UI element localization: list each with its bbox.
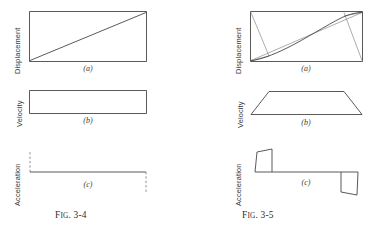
construction-line-left: [251, 13, 269, 57]
figure-sheet: Displacement (a) Velocity (b) Accelerati…: [0, 0, 366, 237]
figure-3-4: Displacement (a) Velocity (b) Accelerati…: [0, 0, 183, 237]
fig-3-4-panel-b-label: (b): [58, 116, 118, 125]
fig-3-5-panel-c-plot: [250, 148, 363, 196]
fig-3-4-panel-c-axis-label: Acceleration: [14, 150, 21, 206]
velocity-rect: [30, 91, 147, 114]
caption-number: . 3-5: [256, 210, 274, 220]
fig-3-4-caption: FIG. 3-4: [55, 210, 87, 220]
caption-ig: IG: [247, 211, 255, 220]
fig-3-5-panel-c-label: (c): [276, 178, 336, 187]
acceleration-pulse-negative: [341, 172, 358, 195]
acceleration-pulse-positive: [255, 149, 272, 172]
fig-3-5-panel-b-plot: [250, 90, 363, 116]
fig-3-5-panel-b-label: (b): [276, 118, 336, 127]
displacement-line: [30, 13, 146, 61]
fig-3-4-panel-a-plot: [29, 11, 147, 62]
fig-3-5-panel-a-axis-label: Displacement: [235, 10, 242, 74]
figure-3-5: Displacement (a) Velocity (b): [183, 0, 366, 237]
chord-line: [251, 13, 362, 61]
fig-3-4-panel-a-label: (a): [58, 64, 118, 73]
fig-3-5-panel-c-axis-label: Acceleration: [235, 150, 242, 206]
fig-3-4-panel-c-label: (c): [58, 180, 118, 189]
fig-3-5-panel-a: Displacement (a): [183, 0, 366, 82]
caption-ig: IG: [60, 211, 68, 220]
fig-3-5-caption: FIG. 3-5: [242, 210, 274, 220]
fig-3-5-panel-a-label: (a): [276, 64, 336, 73]
fig-3-5-panel-c: Acceleration (c): [183, 140, 366, 206]
fig-3-5-panel-b-axis-label: Velocity: [237, 88, 244, 128]
fig-3-4-panel-b: Velocity (b): [0, 82, 183, 140]
fig-3-5-panel-a-plot: [250, 11, 363, 62]
fig-3-4-panel-a: Displacement (a): [0, 0, 183, 82]
fig-3-5-panel-b: Velocity (b): [183, 82, 366, 140]
caption-number: . 3-4: [69, 210, 87, 220]
fig-3-4-panel-b-plot: [29, 90, 147, 114]
construction-line-right: [344, 13, 362, 61]
velocity-trapezoid: [251, 92, 362, 115]
fig-3-4-panel-b-axis-label: Velocity: [16, 89, 23, 127]
fig-3-4-panel-c: Acceleration (c): [0, 140, 183, 206]
fig-3-4-panel-a-axis-label: Displacement: [14, 10, 21, 74]
